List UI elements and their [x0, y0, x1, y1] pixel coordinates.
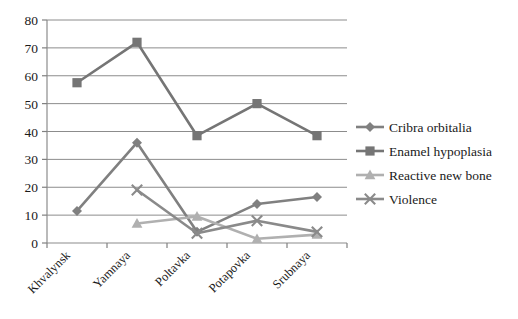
data-point-x	[132, 185, 142, 195]
y-tick-label: 20	[25, 180, 39, 195]
data-point-square	[252, 99, 261, 108]
y-tick-label: 70	[25, 41, 39, 56]
y-tick-label: 0	[31, 236, 38, 251]
y-tick-label: 10	[25, 208, 39, 223]
x-axis-category-labels: KhvalynskYamnayaPoltavkaPotapovkaSrubnay…	[25, 248, 314, 297]
series-line	[137, 190, 317, 233]
x-category-label: Potapovka	[206, 248, 254, 296]
legend-item-cribra-orbitalia: Cribra orbitalia	[356, 120, 472, 135]
y-tick-label: 60	[25, 69, 39, 84]
chart-container: 01020304050607080 KhvalynskYamnayaPoltav…	[0, 0, 518, 319]
x-axis-ticks	[47, 243, 347, 248]
x-category-label: Khvalynsk	[25, 248, 74, 297]
data-point-square	[312, 131, 321, 140]
x-category-label: Poltavka	[152, 248, 193, 289]
y-tick-label: 50	[25, 97, 39, 112]
legend-label: Violence	[389, 192, 437, 207]
legend-label: Enamel hypoplasia	[389, 144, 492, 159]
x-category-label: Yamnaya	[90, 248, 133, 291]
series-violence	[132, 185, 322, 239]
data-point-square	[365, 146, 374, 155]
series-line	[77, 42, 317, 135]
data-point-diamond	[252, 199, 262, 209]
line-chart: 01020304050607080 KhvalynskYamnayaPoltav…	[0, 0, 518, 319]
data-point-diamond	[312, 192, 322, 202]
legend-label: Reactive new bone	[389, 168, 492, 183]
gridlines	[47, 20, 347, 215]
y-tick-label: 30	[25, 152, 39, 167]
y-tick-label: 40	[25, 125, 39, 140]
data-point-diamond	[365, 122, 375, 132]
chart-legend: Cribra orbitaliaEnamel hypoplasiaReactiv…	[356, 120, 492, 207]
y-axis-ticks: 01020304050607080	[25, 13, 48, 251]
legend-item-reactive-new-bone: Reactive new bone	[356, 168, 492, 183]
data-point-square	[192, 131, 201, 140]
y-tick-label: 80	[25, 13, 39, 28]
x-category-label: Srubnaya	[270, 248, 314, 292]
legend-item-violence: Violence	[356, 192, 437, 207]
data-series-group	[72, 38, 322, 243]
data-point-square	[72, 78, 81, 87]
series-enamel-hypoplasia	[72, 38, 321, 141]
legend-label: Cribra orbitalia	[389, 120, 472, 135]
data-point-square	[132, 38, 141, 47]
legend-item-enamel-hypoplasia: Enamel hypoplasia	[356, 144, 492, 159]
